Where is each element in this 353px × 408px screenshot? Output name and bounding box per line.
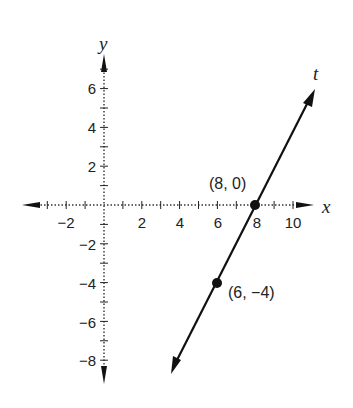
- point-8-0: [250, 200, 260, 210]
- y-tick-label: −8: [79, 352, 96, 369]
- y-tick-label: −4: [79, 275, 96, 292]
- y-tick-label: −2: [79, 236, 96, 253]
- line-t-down-arrow-icon: [171, 356, 181, 374]
- line-t: [176, 100, 309, 362]
- coordinate-plane: −2 2 4 6 8 10 6 4 2 −2 −4 −6 −8 x y t (8…: [0, 0, 353, 408]
- x-axis-right-arrow-icon: [296, 202, 314, 208]
- line-t-up-arrow-icon: [303, 89, 315, 107]
- x-axis-label: x: [321, 196, 331, 217]
- x-tick-label: 4: [176, 214, 184, 231]
- point-6-neg4-label: (6, −4): [228, 284, 275, 301]
- y-axis-down-arrow-icon: [101, 366, 107, 384]
- point-8-0-label: (8, 0): [209, 175, 246, 192]
- y-ticks: [100, 69, 108, 360]
- point-6-neg4: [212, 278, 222, 288]
- line-t-label: t: [313, 63, 319, 84]
- y-tick-label: 2: [88, 158, 96, 175]
- x-tick-label: 6: [214, 214, 222, 231]
- x-axis-left-arrow-icon: [22, 202, 40, 208]
- y-axis-label: y: [97, 33, 108, 54]
- y-tick-label: 6: [88, 80, 96, 97]
- y-tick-label: 4: [88, 119, 96, 136]
- x-tick-label: −2: [57, 214, 74, 231]
- x-tick-label: 2: [138, 214, 146, 231]
- x-tick-label: 10: [285, 214, 302, 231]
- y-tick-label: −6: [79, 314, 96, 331]
- x-tick-label: 8: [253, 214, 261, 231]
